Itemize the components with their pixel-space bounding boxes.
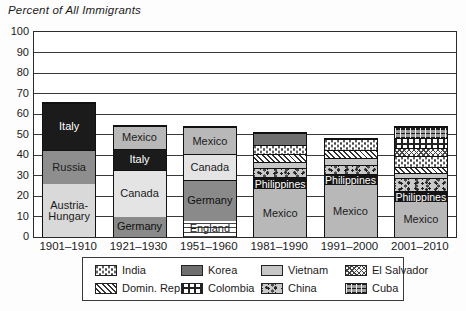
segment-Germany: Germany (114, 217, 166, 237)
legend-item-Cuba: Cuba (345, 282, 428, 294)
legend-label-Cuba: Cuba (372, 282, 398, 294)
gridline-90 (34, 52, 456, 53)
x-tick-label-1981–1990: 1981–1990 (244, 240, 314, 252)
gridline-20 (34, 196, 456, 197)
legend-box: IndiaDomin. Rep.KoreaColombiaVietnamChin… (82, 257, 404, 301)
legend-item-China: China (261, 282, 345, 294)
legend-swatch-India (95, 265, 117, 276)
legend-label-India: India (122, 264, 146, 276)
segment-China (395, 178, 447, 191)
gridline-80 (34, 73, 456, 74)
y-tick-label-60: 60 (2, 107, 29, 119)
segment-Domin. Rep. (325, 150, 377, 158)
segment-India (325, 139, 377, 150)
segment-label-Germany: Germany (114, 221, 166, 232)
legend-swatch-Cuba (345, 283, 367, 294)
legend-item-Domin. Rep.: Domin. Rep. (95, 282, 181, 294)
legend-swatch-Colombia (181, 283, 203, 294)
segment-Domin. Rep. (395, 167, 447, 173)
segment-El Salvador (395, 148, 447, 156)
legend-item-Vietnam: Vietnam (261, 264, 345, 276)
segment-Mexico: Mexico (325, 185, 377, 237)
segment-Philippines: Philippines (395, 191, 447, 202)
legend-swatch-Domin. Rep. (95, 283, 117, 294)
legend-label-Colombia: Colombia (208, 282, 254, 294)
legend-item-El Salvador: El Salvador (345, 264, 428, 276)
y-tick-label-30: 30 (2, 169, 29, 181)
segment-Canada: Canada (184, 154, 236, 180)
gridline-10 (34, 216, 456, 217)
segment-Mexico: Mexico (254, 189, 306, 237)
gridline-50 (34, 134, 456, 135)
bar-1921–1930: GermanyCanadaItalyMexico (113, 125, 167, 237)
segment-Vietnam (254, 162, 306, 168)
segment-label-Italy: Italy (43, 121, 95, 132)
y-tick-label-0: 0 (2, 230, 29, 242)
legend-label-Domin. Rep.: Domin. Rep. (122, 282, 183, 294)
gridline-40 (34, 155, 456, 156)
chart-title: Percent of All Immigrants (8, 4, 141, 16)
segment-Philippines: Philippines (254, 177, 306, 189)
gridline-60 (34, 114, 456, 115)
x-tick-label-1901–1910: 1901–1910 (33, 240, 103, 252)
y-tick-label-10: 10 (2, 210, 29, 222)
segment-label-Mexico: Mexico (114, 132, 166, 143)
legend-label-Korea: Korea (208, 264, 237, 276)
segment-England: England (184, 221, 236, 237)
segment-label-Italy: Italy (114, 154, 166, 165)
legend-label-El Salvador: El Salvador (372, 264, 428, 276)
segment-Italy: Italy (43, 103, 95, 150)
segment-label-Mexico: Mexico (184, 136, 236, 147)
segment-label-Austria-Hungary: Austria-Hungary (43, 200, 95, 222)
legend-swatch-Korea (181, 265, 203, 276)
legend-label-China: China (288, 282, 317, 294)
immigration-stacked-bar-figure: Percent of All Immigrants Austria-Hungar… (0, 0, 466, 311)
segment-label-Canada: Canada (114, 188, 166, 199)
legend-item-Korea: Korea (181, 264, 261, 276)
bar-1901–1910: Austria-HungaryRussiaItaly (42, 102, 96, 237)
y-tick-label-70: 70 (2, 87, 29, 99)
y-tick-label-100: 100 (2, 25, 29, 37)
segment-Philippines: Philippines (325, 174, 377, 185)
bar-1991–2000: MexicoPhilippines (324, 138, 378, 237)
y-tick-label-40: 40 (2, 148, 29, 160)
segment-label-Russia: Russia (43, 162, 95, 173)
segment-Germany: Germany (184, 180, 236, 221)
segment-Vietnam (325, 158, 377, 165)
segment-Russia: Russia (43, 150, 95, 185)
segment-label-Mexico: Mexico (325, 206, 377, 217)
legend-swatch-El Salvador (345, 265, 367, 276)
gridline-70 (34, 93, 456, 94)
segment-Cuba (395, 127, 447, 138)
legend-item-Colombia: Colombia (181, 282, 261, 294)
segment-Canada: Canada (114, 170, 166, 217)
x-tick-label-1921–1930: 1921–1930 (103, 240, 173, 252)
segment-India (254, 145, 306, 154)
segment-label-Germany: Germany (184, 195, 236, 206)
segment-label-Mexico: Mexico (395, 214, 447, 225)
y-tick-label-50: 50 (2, 128, 29, 140)
segment-China (325, 165, 377, 174)
gridline-30 (34, 175, 456, 176)
segment-label-Canada: Canada (184, 162, 236, 173)
segment-label-Mexico: Mexico (254, 208, 306, 219)
plot-area: Austria-HungaryRussiaItalyGermanyCanadaI… (33, 31, 457, 238)
segment-Mexico: Mexico (184, 127, 236, 153)
segment-Italy: Italy (114, 149, 166, 170)
segment-Domin. Rep. (254, 154, 306, 162)
legend-swatch-Vietnam (261, 265, 283, 276)
y-tick-label-80: 80 (2, 66, 29, 78)
x-tick-label-2001–2010: 2001–2010 (385, 240, 455, 252)
segment-label-Philippines: Philippines (395, 192, 447, 202)
segment-Mexico: Mexico (114, 126, 166, 148)
legend-item-India: India (95, 264, 181, 276)
legend-label-Vietnam: Vietnam (288, 264, 328, 276)
segment-Korea (254, 133, 306, 144)
bar-2001–2010: MexicoPhilippines (394, 126, 448, 237)
bar-1951–1960: EnglandGermanyCanadaMexico (183, 126, 237, 237)
y-tick-label-20: 20 (2, 189, 29, 201)
segment-label-England: England (184, 223, 236, 234)
y-tick-label-90: 90 (2, 46, 29, 58)
segment-label-Philippines: Philippines (254, 179, 306, 189)
bar-1981–1990: MexicoPhilippines (253, 132, 307, 237)
